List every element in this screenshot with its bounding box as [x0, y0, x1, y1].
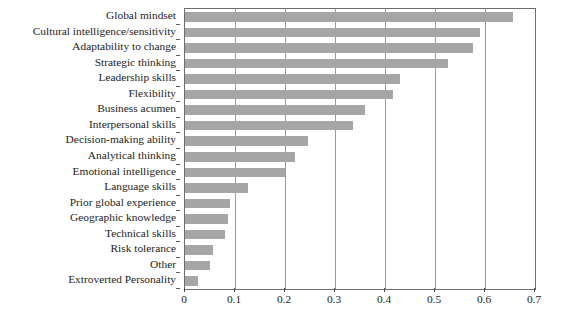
category-label: Strategic thinking	[95, 55, 176, 71]
category-label: Technical skills	[105, 226, 176, 242]
bar	[185, 199, 230, 209]
category-tick	[176, 195, 180, 196]
category-tick	[176, 132, 180, 133]
x-tick-mark	[184, 288, 185, 292]
bar	[185, 136, 308, 146]
bar-row	[185, 40, 535, 56]
x-tick-label: 0.7	[527, 293, 541, 305]
bars-layer	[185, 9, 535, 289]
category-tick	[176, 117, 180, 118]
bar-row	[185, 149, 535, 165]
bar	[185, 245, 213, 255]
bar-row	[185, 9, 535, 25]
bar-row	[185, 87, 535, 103]
category-tick	[176, 272, 180, 273]
bar	[185, 43, 473, 53]
category-tick	[176, 257, 180, 258]
bar	[185, 261, 210, 271]
bar-row	[185, 102, 535, 118]
bar	[185, 152, 295, 162]
bar	[185, 183, 248, 193]
category-tick	[176, 101, 180, 102]
category-tick	[176, 86, 180, 87]
x-tick-mark	[334, 288, 335, 292]
bar	[185, 59, 448, 69]
category-tick	[176, 288, 180, 289]
category-tick	[176, 55, 180, 56]
category-tick	[176, 24, 180, 25]
category-tick	[176, 148, 180, 149]
category-tick	[176, 226, 180, 227]
x-tick-label: 0.6	[477, 293, 491, 305]
bar-row	[185, 273, 535, 289]
category-label: Emotional intelligence	[73, 164, 176, 180]
horizontal-bar-chart: Global mindsetCultural intelligence/sens…	[0, 0, 567, 332]
x-tick-mark	[434, 288, 435, 292]
bar	[185, 230, 225, 240]
bar-row	[185, 71, 535, 87]
x-tick-mark	[384, 288, 385, 292]
category-label: Interpersonal skills	[89, 117, 176, 133]
category-label: Adaptability to change	[72, 39, 176, 55]
category-axis: Global mindsetCultural intelligence/sens…	[0, 8, 180, 288]
bar	[185, 74, 400, 84]
x-tick-label: 0.4	[377, 293, 391, 305]
x-axis: 00.10.20.30.40.50.60.7	[184, 288, 536, 318]
category-tick	[176, 164, 180, 165]
bar	[185, 105, 365, 115]
bar	[185, 121, 353, 131]
category-tick	[176, 210, 180, 211]
bar-row	[185, 196, 535, 212]
x-tick-label: 0.1	[227, 293, 241, 305]
bar-row	[185, 242, 535, 258]
category-label: Business acumen	[97, 101, 176, 117]
bar	[185, 28, 480, 38]
bar	[185, 168, 285, 178]
bar-row	[185, 118, 535, 134]
x-tick-mark	[284, 288, 285, 292]
category-label: Analytical thinking	[88, 148, 176, 164]
bar-row	[185, 180, 535, 196]
bar	[185, 12, 513, 22]
category-tick	[176, 241, 180, 242]
category-label: Cultural intelligence/sensitivity	[33, 24, 176, 40]
category-tick	[176, 39, 180, 40]
bar	[185, 276, 198, 286]
bar	[185, 214, 228, 224]
bar-row	[185, 56, 535, 72]
plot-area	[184, 8, 536, 290]
bar	[185, 90, 393, 100]
category-label: Global mindset	[106, 8, 176, 24]
category-tick	[176, 179, 180, 180]
category-label: Prior global experience	[70, 195, 176, 211]
category-tick	[176, 70, 180, 71]
x-tick-label: 0.3	[327, 293, 341, 305]
bar-row	[185, 211, 535, 227]
category-label: Other	[150, 257, 176, 273]
bar-row	[185, 165, 535, 181]
category-label: Flexibility	[129, 86, 176, 102]
x-tick-mark	[484, 288, 485, 292]
bar-row	[185, 133, 535, 149]
category-label: Extroverted Personality	[68, 272, 176, 288]
category-label: Decision-making ability	[66, 132, 176, 148]
category-label: Geographic knowledge	[70, 210, 176, 226]
category-label: Risk tolerance	[111, 241, 176, 257]
x-tick-mark	[234, 288, 235, 292]
category-label: Leadership skills	[98, 70, 176, 86]
x-tick-mark	[534, 288, 535, 292]
bar-row	[185, 258, 535, 274]
bar-row	[185, 227, 535, 243]
x-tick-label: 0.2	[277, 293, 291, 305]
category-label: Language skills	[104, 179, 176, 195]
x-tick-label: 0.5	[427, 293, 441, 305]
x-tick-label: 0	[181, 293, 187, 305]
bar-row	[185, 25, 535, 41]
